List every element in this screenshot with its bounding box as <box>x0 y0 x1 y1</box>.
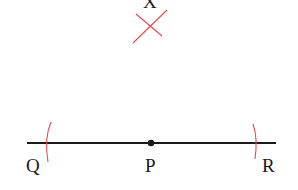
point-P-dot <box>148 140 155 147</box>
label-X: X <box>143 0 157 11</box>
label-P: P <box>145 156 156 175</box>
arc-right <box>253 124 256 159</box>
construction-diagram: X Q P R <box>0 0 298 190</box>
label-Q: Q <box>26 156 40 175</box>
arc-cross-1 <box>136 14 162 36</box>
label-R: R <box>262 156 275 175</box>
arc-cross-2 <box>133 10 167 43</box>
